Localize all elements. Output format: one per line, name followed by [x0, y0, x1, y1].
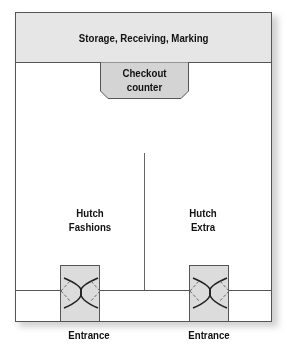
storage-area: Storage, Receiving, Marking: [16, 13, 271, 63]
swing-door-icon: [61, 266, 101, 323]
checkout-line2: counter: [105, 80, 183, 94]
checkout-counter: Checkout counter: [100, 62, 189, 99]
checkout-line1: Checkout: [105, 66, 183, 80]
storefront-line: [16, 290, 271, 291]
entrance-door-left: [60, 265, 100, 322]
store-hutch-fashions: Hutch Fashions: [46, 206, 134, 234]
store-name-line1: Hutch: [46, 206, 134, 220]
entrance-door-right: [189, 265, 229, 322]
store-hutch-extra: Hutch Extra: [159, 206, 247, 234]
entrance-label-right: Entrance: [174, 328, 244, 342]
store-name-line1: Hutch: [159, 206, 247, 220]
swing-door-icon: [190, 266, 230, 323]
entrance-label-left: Entrance: [54, 328, 124, 342]
store-divider: [144, 153, 145, 291]
store-name-line2: Extra: [159, 220, 247, 234]
store-name-line2: Fashions: [46, 220, 134, 234]
storage-area-label: Storage, Receiving, Marking: [79, 31, 209, 45]
floor-plan: Storage, Receiving, Marking Checkout cou…: [15, 12, 272, 322]
checkout-counter-label: Checkout counter: [105, 66, 183, 94]
